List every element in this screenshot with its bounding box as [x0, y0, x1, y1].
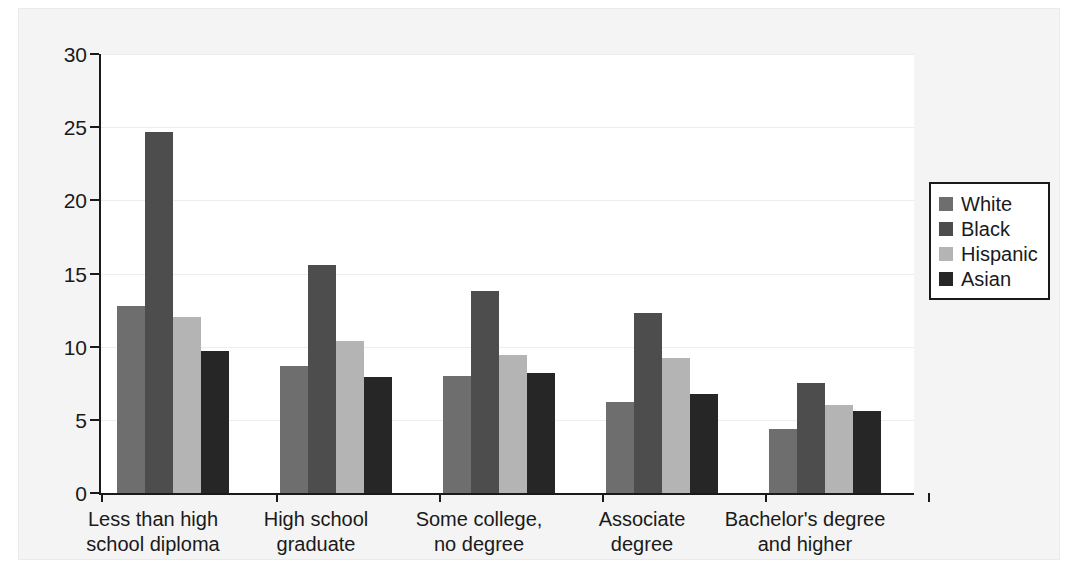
- y-axis-tick-label: 0: [47, 483, 87, 504]
- y-axis-tick: [90, 126, 99, 128]
- chart-page: 051015202530 Less than high school diplo…: [0, 0, 1079, 572]
- legend-item-black[interactable]: Black: [939, 216, 1038, 241]
- bar-black[interactable]: [471, 291, 499, 493]
- bar-white[interactable]: [443, 376, 471, 493]
- y-axis-tick: [90, 346, 99, 348]
- bar-white[interactable]: [606, 402, 634, 493]
- x-axis-tick: [439, 493, 441, 502]
- y-axis-tick-label: 5: [47, 409, 87, 430]
- legend-item-label: Black: [961, 219, 1010, 239]
- y-axis-tick: [90, 492, 99, 494]
- legend-item-label: Hispanic: [961, 244, 1038, 264]
- y-axis-tick-label: 10: [47, 336, 87, 357]
- bar-hispanic[interactable]: [825, 405, 853, 493]
- y-axis-tick-label: 30: [47, 44, 87, 65]
- bar-asian[interactable]: [690, 394, 718, 494]
- bar-hispanic[interactable]: [173, 317, 201, 493]
- bar-group: [443, 54, 555, 493]
- legend-swatch-icon: [939, 222, 953, 236]
- bar-group: [117, 54, 229, 493]
- legend-item-label: White: [961, 194, 1012, 214]
- x-axis-category-label: Less than high school diploma: [71, 507, 235, 557]
- bar-group-bars: [769, 54, 881, 493]
- y-axis-tick: [90, 199, 99, 201]
- legend-item-white[interactable]: White: [939, 191, 1038, 216]
- bar-hispanic[interactable]: [662, 358, 690, 493]
- bar-white[interactable]: [769, 429, 797, 493]
- y-axis-tick-label: 25: [47, 117, 87, 138]
- y-axis-tick: [90, 273, 99, 275]
- bar-hispanic[interactable]: [499, 355, 527, 493]
- chart-legend: WhiteBlackHispanicAsian: [929, 182, 1050, 300]
- x-axis-origin-tick: [101, 493, 103, 502]
- plot-area: [99, 54, 914, 495]
- bar-group-bars: [280, 54, 392, 493]
- bar-group-bars: [443, 54, 555, 493]
- bar-group: [769, 54, 881, 493]
- legend-swatch-icon: [939, 197, 953, 211]
- bar-group: [606, 54, 718, 493]
- bar-asian[interactable]: [201, 351, 229, 493]
- bar-asian[interactable]: [527, 373, 555, 493]
- y-axis-labels: 051015202530: [39, 54, 87, 493]
- y-axis-tick-label: 15: [47, 263, 87, 284]
- bar-black[interactable]: [308, 265, 336, 493]
- bar-black[interactable]: [634, 313, 662, 493]
- bar-asian[interactable]: [853, 411, 881, 493]
- bar-white[interactable]: [117, 306, 145, 493]
- bar-group-bars: [117, 54, 229, 493]
- x-axis-tick: [765, 493, 767, 502]
- bar-hispanic[interactable]: [336, 341, 364, 493]
- bar-black[interactable]: [797, 383, 825, 493]
- bar-group-bars: [606, 54, 718, 493]
- legend-swatch-icon: [939, 272, 953, 286]
- x-axis-category-label: High school graduate: [234, 507, 398, 557]
- bar-white[interactable]: [280, 366, 308, 493]
- x-axis-category-label: Bachelor's degree and higher: [723, 507, 887, 557]
- x-axis-category-label: Associate degree: [560, 507, 724, 557]
- y-axis-tick: [90, 53, 99, 55]
- bar-group: [280, 54, 392, 493]
- legend-swatch-icon: [939, 247, 953, 261]
- y-axis-tick-label: 20: [47, 190, 87, 211]
- legend-item-hispanic[interactable]: Hispanic: [939, 241, 1038, 266]
- bar-asian[interactable]: [364, 377, 392, 493]
- y-axis-tick: [90, 419, 99, 421]
- bar-black[interactable]: [145, 132, 173, 493]
- page-panel: 051015202530 Less than high school diplo…: [18, 8, 1060, 560]
- x-axis-tick: [602, 493, 604, 502]
- x-axis-tick: [928, 493, 930, 502]
- legend-item-label: Asian: [961, 269, 1011, 289]
- x-axis-tick: [276, 493, 278, 502]
- x-axis-category-label: Some college, no degree: [397, 507, 561, 557]
- legend-item-asian[interactable]: Asian: [939, 266, 1038, 291]
